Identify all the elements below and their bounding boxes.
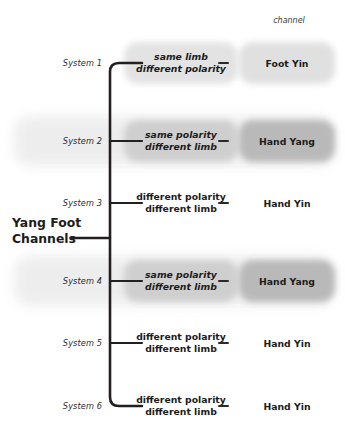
relation-line-2: different limb [145, 406, 217, 417]
system-label: System 1 [18, 58, 102, 68]
system-label: System 4 [18, 276, 102, 286]
relation-line-2: different limb [145, 343, 217, 354]
channel-label: Foot Yin [237, 58, 337, 70]
system-label: System 6 [18, 401, 102, 411]
relation-line-1: same polarity [145, 269, 217, 280]
relation-line-2: different polarity [136, 63, 226, 74]
relation-line-2: different limb [145, 141, 217, 152]
channel-relationship-diagram: channel Yang FootChannels System 1same l… [0, 0, 345, 445]
root-label: Yang FootChannels [12, 215, 108, 247]
channel-label: Hand Yin [237, 198, 337, 210]
channel-label: Hand Yin [237, 401, 337, 413]
relation-line-2: different limb [145, 281, 217, 292]
root-label-line1: Yang Foot [12, 215, 81, 230]
relation-line-1: same limb [154, 51, 208, 62]
relation-line-2: different limb [145, 203, 217, 214]
system-label: System 5 [18, 338, 102, 348]
system-label: System 2 [18, 136, 102, 146]
relation-line-1: same polarity [145, 129, 217, 140]
channel-label: Hand Yang [237, 276, 337, 288]
channel-label: Hand Yin [237, 338, 337, 350]
relation-line-1: different polarity [136, 394, 226, 405]
column-header-channel: channel [259, 16, 319, 26]
root-label-line2: Channels [12, 231, 76, 246]
channel-label: Hand Yang [237, 136, 337, 148]
relation-line-1: different polarity [136, 191, 226, 202]
system-label: System 3 [18, 198, 102, 208]
relation-line-1: different polarity [136, 331, 226, 342]
